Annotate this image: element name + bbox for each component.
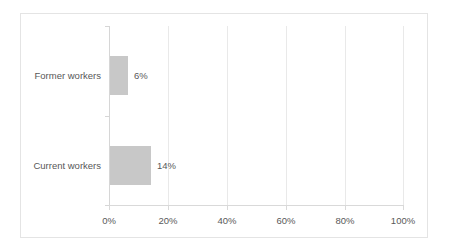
x-axis-line	[109, 205, 404, 206]
x-tick-40	[227, 206, 228, 210]
gridline-20	[168, 26, 169, 206]
category-label-former-workers: Former workers	[21, 71, 101, 81]
x-tick-label-40: 40%	[217, 216, 236, 226]
bar-current-workers[interactable]	[110, 146, 151, 185]
x-tick-80	[345, 206, 346, 210]
category-tick-top	[105, 26, 109, 27]
x-tick-60	[286, 206, 287, 210]
gridline-40	[227, 26, 228, 206]
x-tick-100	[403, 206, 404, 210]
gridline-80	[345, 26, 346, 206]
x-tick-20	[168, 206, 169, 210]
x-tick-label-80: 80%	[335, 216, 354, 226]
x-tick-label-100: 100%	[391, 216, 415, 226]
category-tick-middle	[105, 116, 109, 117]
chart-frame: 6% 14% Former workers Current workers 0%…	[20, 13, 428, 238]
x-tick-label-0: 0%	[102, 216, 116, 226]
bar-former-workers[interactable]	[110, 56, 128, 95]
bar-value-current-workers: 14%	[157, 161, 176, 171]
x-tick-label-20: 20%	[158, 216, 177, 226]
gridline-60	[286, 26, 287, 206]
bar-value-former-workers: 6%	[134, 71, 148, 81]
category-label-current-workers: Current workers	[21, 161, 101, 171]
plot-area: 6% 14% Former workers Current workers 0%…	[109, 26, 404, 206]
x-tick-label-60: 60%	[276, 216, 295, 226]
gridline-100	[403, 26, 404, 206]
x-tick-0	[109, 206, 110, 210]
